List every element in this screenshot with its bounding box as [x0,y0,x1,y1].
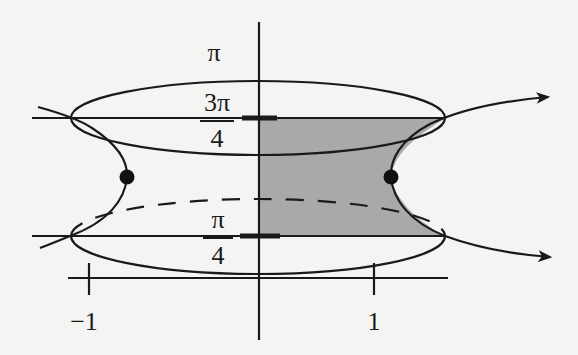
shaded-region [259,118,445,236]
label-3pi-over-4: 3π 4 [200,90,234,152]
left-dot [120,170,135,185]
left-hyperbola [38,107,127,248]
fraction-bar [203,237,233,239]
label-pi: π [202,40,226,66]
fraction-bar [200,120,234,122]
label-3pi-numerator: 3π [200,90,234,118]
diagram-canvas [0,0,578,355]
right-dot [384,170,399,185]
label-pi-denominator: 4 [203,243,233,269]
diagram: π 3π 4 π 4 −1 1 [0,0,578,355]
tick-label-1: 1 [362,309,386,335]
label-3pi-denominator: 4 [200,126,234,152]
label-pi-numerator: π [203,207,233,235]
label-pi-over-4: π 4 [203,207,233,269]
tick-label-neg1: −1 [66,309,102,335]
